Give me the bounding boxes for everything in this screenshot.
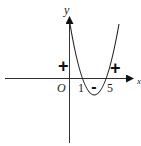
sign-middle-negative: - <box>91 78 96 95</box>
y-axis-label: y <box>63 3 70 17</box>
origin-label: O <box>57 81 66 95</box>
root-label-5: 5 <box>107 81 113 95</box>
root-label-1: 1 <box>78 81 84 95</box>
parabola-diagram: y x O 1 5 + - + <box>0 0 141 146</box>
sign-right-positive: + <box>110 58 121 78</box>
sign-left-positive: + <box>58 56 69 76</box>
x-axis-label: x <box>136 76 141 86</box>
